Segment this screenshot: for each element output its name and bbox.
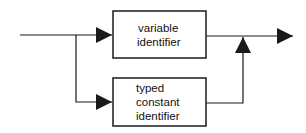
variable-identifier-line-1: variable [138,22,178,34]
syntax-diagram: variable identifier typed constant ident… [0,0,306,133]
variable-identifier-box: variable identifier [113,11,206,58]
merge-line [206,37,243,103]
branch-line [76,35,112,102]
typed-constant-identifier-line-1: typed [136,82,164,94]
typed-constant-identifier-line-2: constant [136,96,180,108]
typed-constant-identifier-box: typed constant identifier [113,78,206,126]
typed-constant-identifier-line-3: identifier [136,110,180,122]
variable-identifier-line-2: identifier [137,36,181,48]
